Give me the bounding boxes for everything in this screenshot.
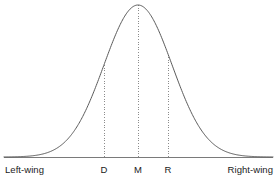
axis-label-right-wing: Right-wing bbox=[228, 164, 273, 175]
tick-label-r: R bbox=[165, 164, 172, 175]
bell-curve-plot bbox=[0, 0, 277, 181]
tick-label-d: D bbox=[101, 164, 108, 175]
axis-label-left-wing: Left-wing bbox=[5, 164, 44, 175]
tick-label-m: M bbox=[134, 164, 142, 175]
distribution-figure: Left-wing Right-wing D M R bbox=[0, 0, 277, 181]
